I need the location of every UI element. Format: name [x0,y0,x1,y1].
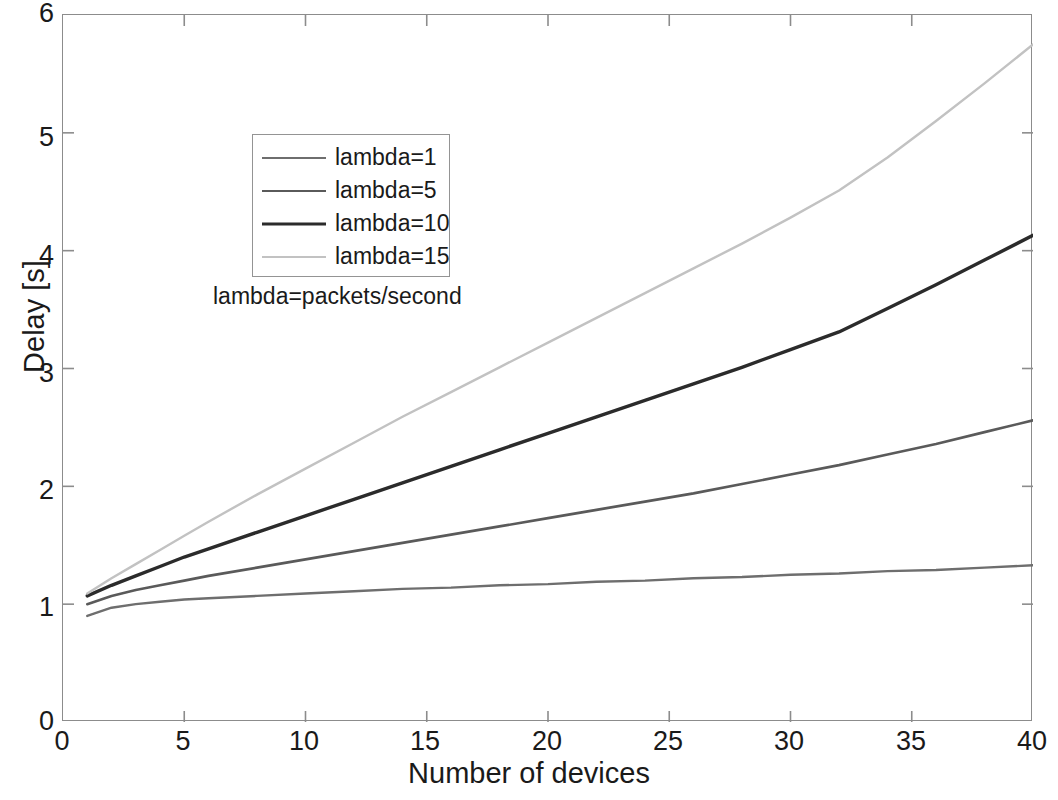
axis-ticks [63,15,1033,722]
y-tick-label-4: 4 [10,242,54,269]
legend-label-lambda-5: lambda=5 [326,177,437,204]
plot-area: lambda=1 lambda=5 lambda=10 lambda=15 la… [62,14,1032,721]
x-tick-label-25: 25 [638,728,698,755]
series-line-lambda-5 [87,420,1033,604]
x-tick-label-40: 40 [1002,728,1058,755]
legend-label-lambda-10: lambda=10 [326,210,449,237]
x-tick-label-30: 30 [759,728,819,755]
series-lines [87,44,1033,615]
x-tick-label-15: 15 [395,728,455,755]
y-tick-label-5: 5 [10,124,54,151]
x-tick-label-0: 0 [32,728,92,755]
legend-swatch-lambda-10 [262,218,326,230]
x-tick-label-35: 35 [881,728,941,755]
legend-swatch-lambda-15 [262,251,326,263]
y-axis-title: Delay [s] [18,197,51,437]
legend-swatch-lambda-5 [262,185,326,197]
legend-item-lambda-1: lambda=1 [253,141,449,174]
legend: lambda=1 lambda=5 lambda=10 lambda=15 [252,134,450,277]
x-tick-label-10: 10 [274,728,334,755]
legend-caption: lambda=packets/second [213,283,462,310]
legend-swatch-lambda-1 [262,152,326,164]
y-tick-label-2: 2 [10,477,54,504]
chart-figure: Delay [s] 6 5 4 3 2 1 0 lambda=1 lambda=… [0,0,1058,800]
y-tick-label-3: 3 [10,360,54,387]
y-tick-label-1: 1 [10,594,54,621]
legend-item-lambda-15: lambda=15 [253,240,449,273]
y-tick-label-6: 6 [10,0,54,27]
x-tick-label-20: 20 [517,728,577,755]
legend-item-lambda-5: lambda=5 [253,174,449,207]
series-line-lambda-15 [87,44,1033,593]
x-tick-label-5: 5 [153,728,213,755]
plot-canvas [63,15,1033,722]
legend-label-lambda-15: lambda=15 [326,243,449,270]
legend-label-lambda-1: lambda=1 [326,144,437,171]
x-axis-title: Number of devices [0,757,1058,790]
legend-item-lambda-10: lambda=10 [253,207,449,240]
